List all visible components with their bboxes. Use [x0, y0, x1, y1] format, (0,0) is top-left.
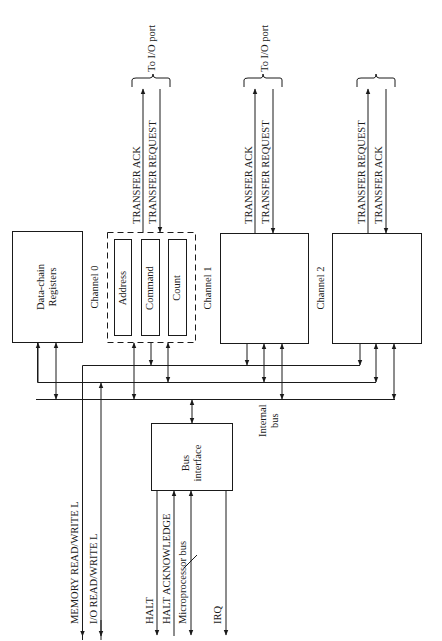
ch0-transfer-ack-label: TRANSFER ACK [131, 146, 143, 224]
halt-acknowledge-label: HALT ACKNOWLEDGE [161, 513, 173, 624]
diagram-lines [0, 0, 442, 641]
count-label: Count [171, 258, 183, 318]
ch2-transfer-request-label: TRANSFER REQUEST [356, 120, 368, 224]
brace-ch1 [244, 74, 282, 87]
microprocessor-bus-label: Microprocessor bus [177, 541, 189, 624]
ch0-transfer-request-label: TRANSFER REQUEST [147, 120, 159, 224]
channel-0-label: Channel 0 [89, 257, 101, 317]
to-io-port-label-ch0: To I/O port [146, 25, 158, 72]
bus-interface-label: Bus interface [180, 433, 204, 493]
address-label: Address [117, 258, 129, 318]
data-chain-registers-label: Data-chain Registers [35, 257, 59, 317]
command-label: Command [144, 258, 156, 318]
ch2-transfer-ack-label: TRANSFER ACK [373, 146, 385, 224]
internal-bus-label: Internal bus [257, 404, 281, 437]
irq-label: IRQ [212, 606, 224, 624]
halt-label: HALT [144, 597, 156, 624]
channel-2-label: Channel 2 [315, 258, 327, 318]
ch1-transfer-request-label: TRANSFER REQUEST [260, 120, 272, 224]
channel-1-box [221, 234, 309, 344]
io-read-write-label: I/O READ/WRITE L [88, 534, 100, 624]
channel-2-box [333, 234, 422, 344]
bus-line-1 [83, 366, 361, 641]
bus-line-2 [38, 342, 377, 383]
channel-1-label: Channel 1 [202, 258, 214, 318]
memory-read-write-label: MEMORY READ/WRITE L [69, 501, 81, 624]
brace-ch0 [132, 74, 170, 87]
dma-controller-diagram: Data-chain Registers Channel 0 Address C… [0, 0, 442, 641]
to-io-port-label-ch1: To I/O port [259, 25, 271, 72]
ch1-transfer-ack-label: TRANSFER ACK [243, 146, 255, 224]
brace-ch2 [357, 74, 395, 87]
